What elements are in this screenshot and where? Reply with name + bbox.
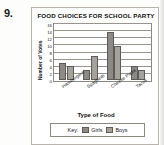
- y-tick-16: 16: [47, 24, 52, 28]
- legend-swatch-girls: [82, 127, 89, 133]
- x-axis-tick-labels: HamburgersSpaghettiCheese PizzaTacos: [53, 82, 152, 108]
- bar-group-spaghetti: [83, 25, 98, 80]
- worksheet-problem-panel: 9. FOOD CHOICES FOR SCHOOL PARTY Number …: [0, 0, 164, 145]
- x-axis-title: Type of Food: [32, 112, 160, 118]
- gridline-16: [54, 23, 151, 24]
- bar-group-hamburgers: [59, 25, 74, 80]
- legend-swatch-boys: [106, 127, 113, 133]
- page-edge-shadow: [160, 0, 164, 145]
- bar-group-cheese-pizza: [107, 25, 122, 80]
- legend-item-girls: Girls: [82, 127, 102, 133]
- y-tick-2: 2: [50, 73, 52, 77]
- chart-card: FOOD CHOICES FOR SCHOOL PARTY Number of …: [31, 7, 159, 145]
- bar-girls-hamburgers: [59, 63, 66, 80]
- y-axis-tick-labels: 0246810121416: [42, 20, 53, 82]
- legend-key-label: Key:: [68, 127, 79, 133]
- legend-label-girls: Girls: [91, 127, 102, 133]
- legend-label-boys: Boys: [115, 127, 127, 133]
- y-tick-0: 0: [50, 80, 52, 84]
- y-tick-8: 8: [50, 52, 52, 56]
- problem-number: 9.: [4, 7, 13, 19]
- y-tick-14: 14: [47, 31, 52, 35]
- legend-item-boys: Boys: [106, 127, 127, 133]
- y-tick-10: 10: [47, 45, 52, 49]
- y-tick-4: 4: [50, 66, 52, 70]
- y-tick-12: 12: [47, 38, 52, 42]
- chart-legend: Key: Girls Boys: [50, 123, 145, 137]
- y-tick-6: 6: [50, 59, 52, 63]
- chart-title: FOOD CHOICES FOR SCHOOL PARTY: [32, 12, 160, 19]
- bar-boys-cheese-pizza: [114, 46, 121, 80]
- bar-girls-cheese-pizza: [107, 32, 114, 80]
